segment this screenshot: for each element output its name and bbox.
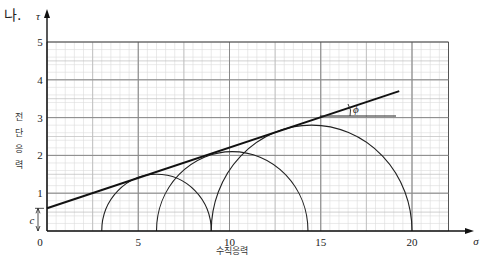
y-axis-arrow-icon (44, 9, 50, 18)
y-tick-label: 5 (37, 36, 43, 48)
y-tick-label: 1 (37, 187, 43, 199)
y-axis-title-char: 단 (15, 128, 23, 138)
x-axis-title: 수직응력 (216, 245, 248, 256)
envelope-line (47, 91, 399, 208)
phi-label: ϕ (353, 103, 359, 115)
origin-label: 0 (37, 236, 43, 248)
x-tick-label: 15 (315, 236, 327, 248)
mohr-circle-chart: ϕ τσ0c510152012345전단응력수직응력 (0, 0, 484, 258)
failure-envelope: ϕ (47, 91, 399, 208)
y-axis-symbol: τ (36, 10, 41, 22)
y-tick-label: 4 (37, 74, 43, 86)
x-tick-label: 20 (407, 236, 419, 248)
x-axis-arrow-icon (465, 228, 474, 234)
x-tick-label: 5 (136, 236, 142, 248)
x-axis-symbol: σ (473, 235, 479, 247)
y-tick-label: 2 (37, 149, 43, 161)
y-axis-title-char: 전 (15, 112, 23, 122)
y-axis-title-char: 응 (15, 144, 23, 154)
cohesion-label: c (30, 214, 35, 226)
y-axis-title-char: 력 (15, 159, 23, 170)
y-tick-label: 3 (37, 112, 43, 124)
